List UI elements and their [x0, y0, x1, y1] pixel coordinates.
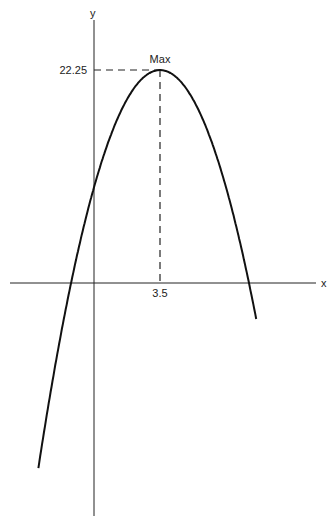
max-y-label: 22.25 — [59, 64, 87, 76]
y-axis-label: y — [90, 7, 96, 19]
parabola-chart: x y 22.25 3.5 Max — [0, 0, 334, 524]
max-label: Max — [150, 53, 171, 65]
x-axis-label: x — [321, 277, 327, 289]
max-x-label: 3.5 — [152, 287, 167, 299]
parabola-curve — [38, 70, 256, 468]
